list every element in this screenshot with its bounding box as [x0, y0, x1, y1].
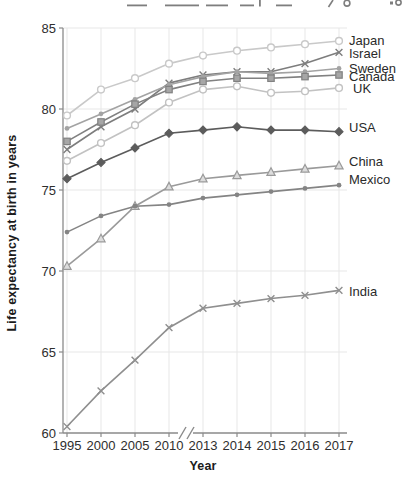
x-tick-label: 2013: [189, 438, 218, 453]
marker-dot: [201, 196, 206, 201]
marker-circle: [98, 140, 105, 147]
series-canada: Canada: [64, 69, 396, 144]
cropped-text-fragments: [127, 0, 401, 7]
y-axis-title: Life expectancy at birth in years: [5, 135, 19, 332]
legend-label-india: India: [349, 284, 378, 299]
text-fragment: [240, 5, 254, 7]
marker-circle: [268, 44, 275, 51]
x-tick-label: 2014: [223, 438, 252, 453]
marker-diamond: [165, 129, 173, 137]
marker-dot: [337, 66, 342, 71]
marker-diamond: [131, 144, 139, 152]
legend-label-china: China: [349, 154, 384, 169]
text-fragment: [127, 5, 147, 7]
marker-circle: [302, 41, 309, 48]
marker-diamond: [267, 126, 275, 134]
marker-dot: [133, 204, 138, 209]
marker-circle: [302, 88, 309, 95]
text-fragment: [276, 5, 292, 7]
legend-label-mexico: Mexico: [349, 172, 390, 187]
marker-square: [64, 138, 70, 144]
marker-square: [98, 119, 104, 125]
marker-circle: [336, 85, 343, 92]
marker-diamond: [199, 126, 207, 134]
x-tick-label: 1995: [53, 438, 82, 453]
marker-diamond: [233, 123, 241, 131]
marker-dot: [167, 202, 172, 207]
y-tick-label: 80: [42, 102, 56, 117]
marker-dot: [337, 183, 342, 188]
life-expectancy-figure: 6065707580851995200020052010201320142015…: [0, 0, 402, 479]
x-axis-title: Year: [189, 459, 216, 473]
series-mexico: Mexico: [65, 172, 391, 235]
x-tick-label: 2000: [87, 438, 116, 453]
marker-diamond: [97, 158, 105, 166]
x-tick-label: 2016: [291, 438, 320, 453]
y-tick-label: 85: [42, 21, 56, 36]
marker-dot: [65, 230, 70, 235]
marker-circle: [132, 75, 139, 82]
text-fragment: [396, 0, 401, 5]
line-chart: 6065707580851995200020052010201320142015…: [0, 0, 402, 479]
marker-dot: [235, 192, 240, 197]
series-india: India: [64, 284, 378, 430]
x-tick-label: 2005: [121, 438, 150, 453]
marker-square: [234, 75, 240, 81]
marker-circle: [98, 86, 105, 93]
y-tick-label: 75: [42, 183, 56, 198]
marker-circle: [336, 38, 343, 45]
y-tick-label: 65: [42, 345, 56, 360]
marker-diamond: [301, 126, 309, 134]
marker-circle: [200, 52, 207, 59]
marker-square: [268, 75, 274, 81]
x-tick-label: 2017: [325, 438, 354, 453]
marker-triangle: [335, 161, 343, 169]
marker-dot: [269, 189, 274, 194]
text-fragment: [329, 0, 334, 7]
marker-square: [166, 86, 172, 92]
legend-label-uk: UK: [353, 81, 371, 96]
marker-circle: [234, 47, 241, 54]
marker-diamond: [335, 128, 343, 136]
legend-label-usa: USA: [349, 120, 376, 135]
marker-circle: [268, 89, 275, 96]
marker-circle: [166, 60, 173, 67]
marker-dot: [99, 214, 104, 219]
marker-dot: [99, 111, 104, 116]
legend-label-israel: Israel: [349, 46, 381, 61]
marker-dot: [65, 126, 70, 131]
y-tick-label: 70: [42, 264, 56, 279]
series-china: China: [63, 154, 384, 269]
text-fragment: [344, 0, 350, 6]
marker-dot: [235, 69, 240, 74]
text-fragment: [390, 2, 393, 5]
x-tick-label: 2015: [257, 438, 286, 453]
marker-square: [200, 78, 206, 84]
marker-circle: [64, 157, 71, 164]
marker-circle: [166, 99, 173, 106]
marker-square: [336, 72, 342, 78]
marker-circle: [132, 122, 139, 129]
marker-diamond: [63, 175, 71, 183]
text-fragment: [259, 0, 261, 7]
marker-dot: [303, 186, 308, 191]
text-fragment: [165, 5, 199, 7]
marker-circle: [64, 112, 71, 119]
x-tick-label: 2010: [155, 438, 184, 453]
marker-square: [302, 73, 308, 79]
text-fragment: [206, 5, 228, 7]
marker-circle: [200, 86, 207, 93]
marker-square: [132, 101, 138, 107]
series-usa: USA: [63, 120, 376, 183]
marker-circle: [234, 83, 241, 90]
